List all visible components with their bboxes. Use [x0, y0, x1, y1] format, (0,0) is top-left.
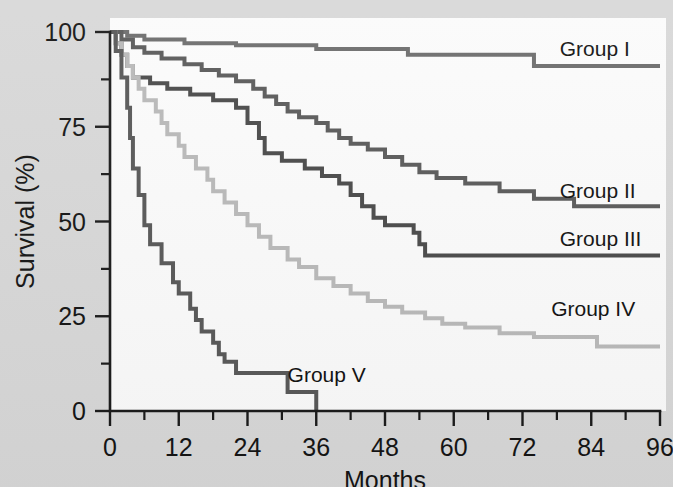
survival-curve-figure: 025507510001224364860728496MonthsSurviva… [0, 0, 673, 487]
plot-area-background [110, 18, 666, 411]
y-tick-label-0: 0 [72, 397, 86, 425]
y-tick-label-50: 50 [58, 208, 86, 236]
y-tick-label-25: 25 [58, 302, 86, 330]
x-tick-label-48: 48 [371, 433, 399, 461]
x-tick-label-96: 96 [646, 433, 673, 461]
x-tick-label-24: 24 [234, 433, 262, 461]
x-tick-label-36: 36 [302, 433, 330, 461]
y-tick-label-75: 75 [58, 113, 86, 141]
series-label-group-v: Group V [288, 363, 366, 386]
series-label-group-iv: Group IV [551, 297, 635, 320]
series-label-group-ii: Group II [560, 179, 636, 202]
x-tick-label-0: 0 [103, 433, 117, 461]
x-axis-title: Months [344, 466, 426, 487]
x-tick-label-12: 12 [165, 433, 193, 461]
kaplan-meier-plot: 025507510001224364860728496MonthsSurviva… [0, 0, 673, 487]
series-label-group-iii: Group III [560, 227, 642, 250]
series-label-group-i: Group I [560, 37, 630, 60]
x-tick-label-72: 72 [509, 433, 537, 461]
x-tick-label-84: 84 [577, 433, 605, 461]
y-tick-label-100: 100 [44, 18, 86, 46]
y-axis-title: Survival (%) [11, 154, 39, 289]
x-tick-label-60: 60 [440, 433, 468, 461]
